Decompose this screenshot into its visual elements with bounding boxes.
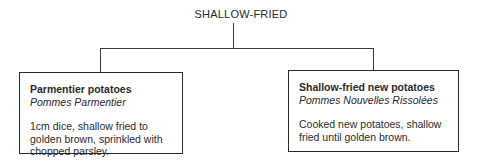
node-title: Shallow-fried new potatoes — [299, 81, 448, 94]
root-node-label: SHALLOW-FRIED — [0, 8, 482, 20]
node-title: Parmentier potatoes — [30, 83, 172, 96]
branch-connector-horizontal — [100, 48, 374, 49]
root-connector-vertical — [233, 23, 234, 48]
right-branch-connector — [373, 48, 374, 70]
child-node-parmentier: Parmentier potatoes Pommes Parmentier 1c… — [19, 72, 183, 154]
node-description: 1cm dice, shallow fried to golden brown,… — [30, 120, 172, 158]
node-subtitle: Pommes Nouvelles Rissolées — [299, 94, 448, 107]
left-branch-connector — [100, 48, 101, 73]
node-subtitle: Pommes Parmentier — [30, 96, 172, 109]
node-description: Cooked new potatoes, shallow fried until… — [299, 118, 448, 143]
child-node-new-potatoes: Shallow-fried new potatoes Pommes Nouvel… — [288, 70, 459, 152]
